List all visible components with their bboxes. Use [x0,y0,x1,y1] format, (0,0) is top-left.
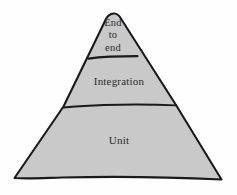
pyramid-shape [0,0,237,195]
test-pyramid-diagram: End to end Integration Unit [0,0,237,195]
pyramid-body [15,13,222,179]
